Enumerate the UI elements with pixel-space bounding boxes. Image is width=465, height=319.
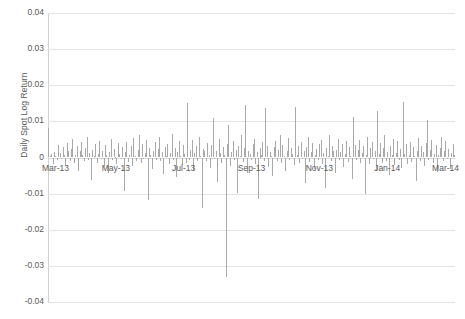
bar <box>112 158 113 161</box>
bar <box>57 158 58 160</box>
bar <box>448 149 449 157</box>
bar <box>406 144 407 157</box>
bar <box>61 158 62 159</box>
bar <box>88 158 89 161</box>
x-axis-tick-label: Jul-13 <box>172 164 195 173</box>
bar <box>400 149 401 158</box>
x-axis-tick-label: Mar-14 <box>432 164 459 173</box>
bar <box>68 151 69 158</box>
bar <box>196 146 197 157</box>
bar <box>173 158 174 161</box>
bar <box>102 151 103 158</box>
bar <box>175 148 176 158</box>
bar <box>186 158 187 163</box>
bar <box>329 135 330 158</box>
y-axis-tick-label: -0.01 <box>4 189 44 198</box>
bar <box>131 146 132 158</box>
y-axis-tick-label: 0.04 <box>4 8 44 17</box>
bar <box>167 144 168 158</box>
bar <box>280 135 281 157</box>
y-axis-tick-label: 0.03 <box>4 44 44 53</box>
bar <box>338 139 339 158</box>
bar <box>393 139 394 158</box>
bar <box>420 158 421 161</box>
bar <box>122 147 123 157</box>
x-axis-tick-label: May-13 <box>102 164 130 173</box>
bar <box>403 102 404 158</box>
x-axis-tick-labels: Mar-13May-13Jul-13Sep-13Nov-13Jan-14Mar-… <box>48 164 455 178</box>
bar <box>380 143 381 157</box>
bar <box>133 138 134 158</box>
bar <box>187 103 188 158</box>
x-axis-tick-label: Jan-14 <box>374 164 400 173</box>
bar <box>97 158 98 164</box>
bar <box>121 158 122 160</box>
bar <box>179 141 180 157</box>
bar <box>221 158 222 164</box>
bar <box>214 158 215 159</box>
bar <box>99 141 100 158</box>
y-axis-tick-label: -0.03 <box>4 261 44 270</box>
bar <box>454 155 455 158</box>
bar <box>295 107 296 157</box>
bar <box>377 111 378 157</box>
bar <box>418 138 419 158</box>
bar <box>363 146 364 157</box>
bar <box>84 158 85 162</box>
bar <box>275 141 276 158</box>
bar <box>331 158 332 162</box>
bar <box>95 144 96 157</box>
bar <box>339 158 340 161</box>
bar <box>302 158 303 159</box>
bar <box>72 139 73 158</box>
bar <box>443 158 444 162</box>
bar <box>236 150 237 158</box>
bar <box>316 149 317 157</box>
bar <box>199 137 200 158</box>
bar <box>74 158 75 163</box>
y-axis-tick-label: -0.02 <box>4 225 44 234</box>
chart-container: Daily Spot Log Return 0.040.030.020.010-… <box>0 0 465 319</box>
bar <box>309 158 310 162</box>
bar <box>234 158 235 161</box>
bar <box>146 140 147 157</box>
bar <box>136 158 137 161</box>
bar <box>159 137 160 158</box>
bar <box>428 158 429 161</box>
bar <box>308 137 309 158</box>
bar <box>197 158 198 161</box>
bar <box>142 144 143 157</box>
bar <box>277 158 278 161</box>
bar <box>386 158 387 161</box>
bar <box>101 158 102 159</box>
bar <box>245 105 246 157</box>
y-axis-tick-labels: 0.040.030.020.010-0.01-0.02-0.03-0.04 <box>0 0 44 319</box>
bar <box>301 142 302 158</box>
bar <box>139 135 140 157</box>
bar <box>111 139 112 157</box>
bar <box>410 142 411 157</box>
bar <box>172 134 173 157</box>
bar <box>431 140 432 158</box>
bar <box>289 158 290 161</box>
bar <box>384 135 385 157</box>
bar <box>348 158 349 163</box>
bar <box>281 158 282 163</box>
y-axis-tick-label: 0 <box>4 153 44 162</box>
bar <box>411 158 412 162</box>
bar <box>445 141 446 157</box>
y-axis-tick-label: -0.04 <box>4 297 44 306</box>
bar <box>447 158 448 160</box>
bar <box>77 146 78 157</box>
y-axis-tick-label: 0.02 <box>4 80 44 89</box>
plot-area <box>48 13 455 302</box>
bar <box>427 120 428 157</box>
y-axis-tick-label: 0.01 <box>4 116 44 125</box>
bar <box>407 158 408 164</box>
bar <box>264 158 265 162</box>
bar <box>360 158 361 164</box>
bar <box>298 146 299 158</box>
bar <box>126 142 127 158</box>
bar <box>367 137 368 158</box>
x-axis-tick-label: Nov-13 <box>306 164 333 173</box>
